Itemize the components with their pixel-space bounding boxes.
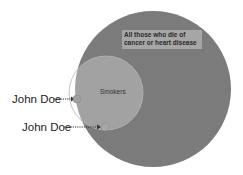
outer-set-label: All those who die of cancer or heart dis… [122, 30, 202, 49]
john-doe-point-1 [73, 95, 81, 103]
john-doe-label-2: John Doe [22, 121, 71, 133]
john-doe-label-1: John Doe [12, 93, 61, 105]
smokers-label: Smokers [100, 88, 126, 95]
john-doe-point-2 [101, 123, 109, 131]
